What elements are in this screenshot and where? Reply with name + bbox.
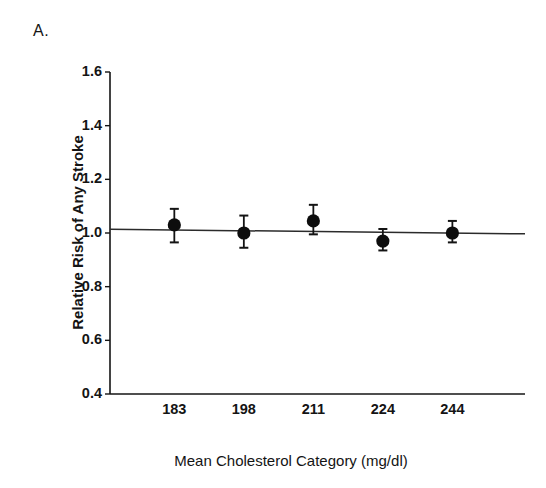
data-points [168,205,459,251]
figure-panel-a: A. Relative Risk of Any Stroke Mean Chol… [0,0,546,488]
plot-area [0,0,546,488]
